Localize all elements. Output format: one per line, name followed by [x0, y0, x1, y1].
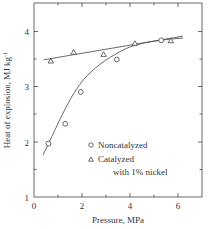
- y-tick-label: 2: [25, 138, 30, 148]
- chart: 4 3 2 1 0 2 4 6 Pressure, MPa Heat of ex…: [0, 0, 211, 229]
- x-tick-label: 4: [128, 201, 133, 211]
- data-point-circle: [114, 57, 119, 62]
- x-tick-label: 6: [176, 201, 181, 211]
- data-point-triangle: [71, 50, 76, 55]
- noncatalyzed-fit-curve: [43, 38, 183, 155]
- legend-catalyzed-2: with 1% nickel: [113, 167, 168, 177]
- x-tick-label: 2: [80, 201, 85, 211]
- y-tick-label: 1: [25, 193, 30, 203]
- legend-noncatalyzed: Noncatalyzed: [98, 140, 148, 150]
- legend-triangle-icon: [89, 157, 94, 161]
- y-axis-label: Heat of explosion, MJ kg-1: [2, 52, 12, 148]
- legend-catalyzed: Catalyzed: [98, 154, 134, 164]
- data-point-circle: [63, 121, 68, 126]
- y-tick-label: 3: [25, 82, 30, 92]
- y-tick-label: 4: [25, 27, 30, 37]
- catalyzed-points: [48, 38, 173, 63]
- data-point-circle: [46, 141, 51, 146]
- data-point-circle: [159, 38, 164, 43]
- data-point-circle: [78, 90, 83, 95]
- data-point-triangle: [132, 41, 137, 46]
- data-point-triangle: [101, 52, 106, 57]
- legend: Noncatalyzed Catalyzed with 1% nickel: [89, 140, 168, 177]
- x-tick-label: 0: [32, 201, 37, 211]
- legend-circle-icon: [89, 143, 93, 147]
- y-axis-label-group: Heat of explosion, MJ kg-1: [2, 52, 12, 148]
- x-axis-label: Pressure, MPa: [92, 215, 144, 225]
